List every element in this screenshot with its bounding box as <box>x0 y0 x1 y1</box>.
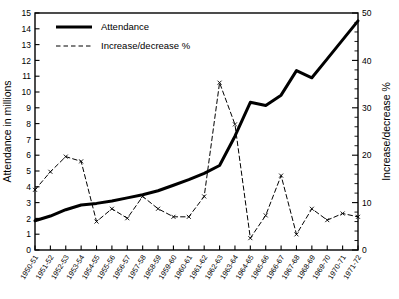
y-axis-tick-label: 8 <box>26 119 31 129</box>
y-axis-tick-label: 11 <box>22 71 31 81</box>
series-line-increase-decrease <box>35 83 358 238</box>
y-axis-tick-label: 3 <box>26 198 31 208</box>
y-axis-tick-label: 4 <box>26 182 31 192</box>
y-axis-tick-label: 14 <box>22 24 32 34</box>
y2-axis-title: Increase/decrease % <box>380 82 392 181</box>
series-line-attendance <box>35 21 358 221</box>
chart-container: 0123456789101112131415010203040501950-51… <box>0 0 399 299</box>
legend-label-increase-decrease: Increase/decrease % <box>101 40 191 51</box>
legend: AttendanceIncrease/decrease % <box>56 21 191 51</box>
y-axis-tick-label: 5 <box>26 166 31 176</box>
y-axis-tick-label: 0 <box>26 245 31 255</box>
y2-axis-tick-label: 20 <box>362 150 372 160</box>
plot-frame <box>35 13 358 250</box>
y-axis-tick-label: 13 <box>22 40 32 50</box>
y2-axis-tick-label: 40 <box>362 56 372 66</box>
y-axis-tick-label: 7 <box>26 135 31 145</box>
y-axis-tick-label: 9 <box>26 103 31 113</box>
legend-label-attendance: Attendance <box>101 21 149 32</box>
series-markers-increase-decrease <box>33 81 360 240</box>
y-axis-tick-label: 2 <box>26 214 31 224</box>
y2-axis-tick-label: 30 <box>362 103 372 113</box>
y-axis-tick-label: 12 <box>22 56 32 66</box>
y-axis-tick-label: 15 <box>22 8 32 18</box>
y-axis-tick-label: 6 <box>26 150 31 160</box>
y2-axis-tick-label: 50 <box>362 8 372 18</box>
y-axis-title: Attendance in millions <box>1 80 13 182</box>
y-axis-tick-label: 10 <box>22 87 32 97</box>
y-axis-tick-label: 1 <box>26 229 31 239</box>
y2-axis-tick-label: 10 <box>362 198 372 208</box>
attendance-line-chart: 0123456789101112131415010203040501950-51… <box>0 0 399 299</box>
y2-axis-tick-label: 0 <box>362 245 367 255</box>
